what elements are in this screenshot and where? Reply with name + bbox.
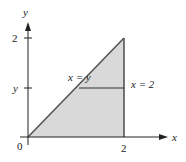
region-diagram: y x 0 2 y 2 x = y x = 2 bbox=[0, 0, 186, 162]
label-x-eq-2: x = 2 bbox=[130, 78, 155, 90]
y-axis-label: y bbox=[22, 6, 28, 18]
y-tick-label-2: 2 bbox=[12, 32, 18, 44]
x-tick-label-2: 2 bbox=[121, 142, 127, 154]
label-x-eq-y: x = y bbox=[67, 71, 91, 83]
x-axis-arrow-icon bbox=[159, 134, 168, 140]
x-axis-label: x bbox=[171, 131, 177, 143]
y-axis-arrow-icon bbox=[25, 22, 31, 31]
origin-label: 0 bbox=[17, 140, 23, 152]
y-tick-label-y: y bbox=[12, 82, 18, 94]
